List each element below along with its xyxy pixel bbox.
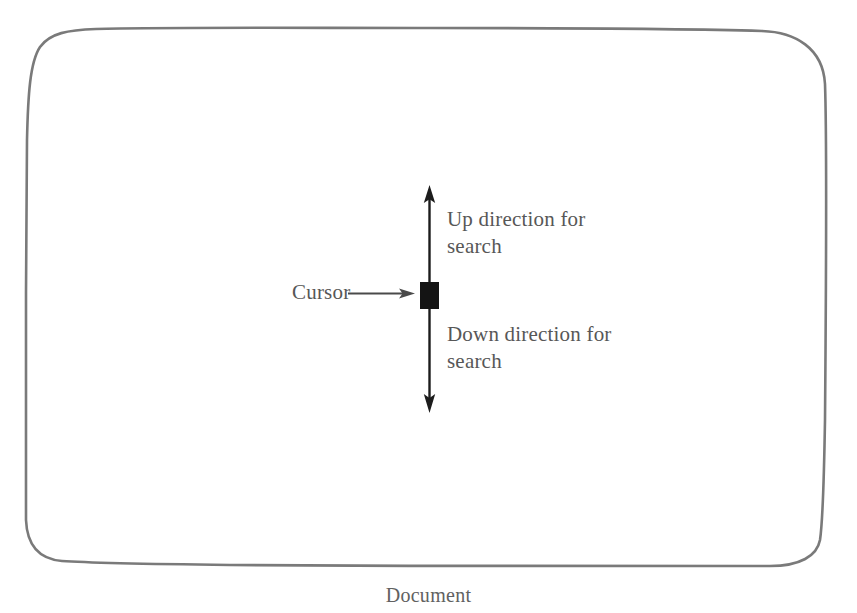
up-arrowhead — [424, 185, 435, 203]
text-cursor-block — [420, 282, 439, 309]
cursor-arrowhead — [399, 289, 415, 299]
figure-caption: Document — [0, 584, 857, 607]
down-arrowhead — [424, 394, 435, 413]
cursor-pointer-arrow — [348, 289, 415, 299]
document-search-direction-figure: Up direction for search Down direction f… — [0, 0, 857, 613]
up-direction-label: Up direction for search — [447, 206, 637, 260]
cursor-label: Cursor — [292, 279, 350, 306]
down-direction-label: Down direction for search — [447, 321, 647, 375]
